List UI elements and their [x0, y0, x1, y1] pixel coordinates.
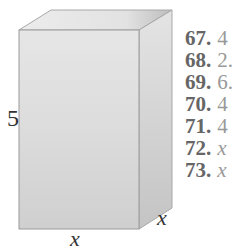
exercise-item: 69.6. [185, 70, 233, 94]
exercise-text: x [217, 158, 226, 182]
exercise-item: 68.2. [185, 48, 233, 72]
exercise-item: 71.4 [185, 114, 228, 138]
box-side-face [139, 10, 172, 229]
exercise-number: 69. [185, 70, 211, 94]
exercise-number: 70. [185, 92, 211, 116]
exercise-item: 70.4 [185, 92, 228, 116]
exercise-text: 2. [217, 48, 233, 72]
exercise-number: 73. [185, 158, 211, 182]
exercise-number: 67. [185, 26, 211, 50]
depth-label: x [157, 205, 167, 231]
exercise-text: 4 [217, 92, 228, 116]
exercise-number: 71. [185, 114, 211, 138]
exercise-number: 68. [185, 48, 211, 72]
box-front-face [19, 30, 139, 229]
exercise-item: 67.4 [185, 26, 228, 50]
exercise-number: 72. [185, 136, 211, 160]
exercise-text: 4 [217, 26, 228, 50]
exercise-item: 73.x [185, 158, 227, 182]
exercise-text: 6. [217, 70, 233, 94]
exercise-text: 4 [217, 114, 228, 138]
width-label: x [70, 226, 80, 249]
exercise-text: x [217, 136, 226, 160]
height-label: 5 [7, 105, 19, 132]
exercise-item: 72.x [185, 136, 227, 160]
